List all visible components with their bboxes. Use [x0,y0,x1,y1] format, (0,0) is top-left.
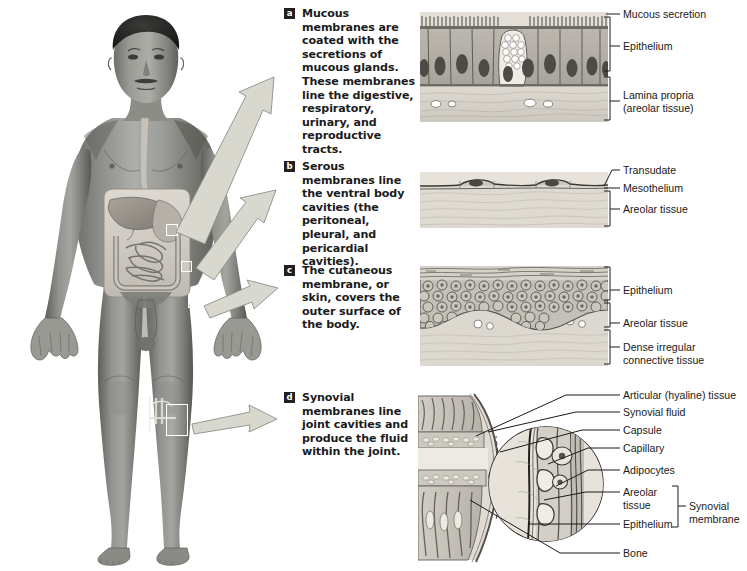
micrograph-panel-mucous [420,12,608,122]
left-hand [31,318,78,360]
badge-d: d [284,392,295,403]
body-svg [0,0,300,571]
magnified-inset [489,427,603,541]
label-areolar-tissue-c: Areolar tissue [623,317,688,329]
description-b-text: Serous membranes line the ventral body c… [302,160,416,269]
left-nipple [109,163,114,168]
label-mesothelium: Mesothelium [623,182,683,194]
label-mucous-secretion: Mucous secretion [623,8,706,20]
badge-a: a [284,8,295,19]
scrotum [137,337,155,351]
right-foot [157,548,189,565]
label-areolar-tissue-d: Areolar tissue [623,486,657,511]
label-epithelium-d: Epithelium [623,518,672,530]
label-articular-hyaline-tissue: Articular (hyaline) tissue [623,389,736,401]
badge-b: b [284,161,295,172]
marker-box-mucous [166,224,178,236]
right-hand [214,318,261,360]
description-a-text: Mucous membranes are coated with the sec… [302,7,416,157]
label-transudate: Transudate [623,164,676,176]
label-lamina-propria: Lamina propria (areolar tissue) [623,89,694,114]
label-synovial-membrane: Synovial membrane [689,500,740,525]
description-c-text: The cutaneous membrane, or skin, covers … [302,264,416,332]
left-ear [108,58,112,70]
label-epithelium-c: Epithelium [623,284,672,296]
label-capsule: Capsule [623,424,662,436]
description-d-text: Synovial membranes line joint cavities a… [302,391,416,459]
description-b: b Serous membranes line the ventral body… [284,160,416,269]
marker-box-synovial [166,404,188,436]
left-foot [98,548,130,565]
marker-box-serous [181,261,192,272]
illustration-panel-synovial [418,392,608,564]
right-ear [180,58,184,70]
marker-box-cutaneous [188,294,202,308]
description-a: a Mucous membranes are coated with the s… [284,7,416,157]
label-synovial-fluid: Synovial fluid [623,406,685,418]
label-capillary: Capillary [623,442,664,454]
right-nipple [177,163,182,168]
right-eye [154,54,164,59]
label-adipocytes: Adipocytes [623,464,675,476]
badge-c: c [284,265,295,276]
description-c: c The cutaneous membrane, or skin, cover… [284,264,416,332]
label-epithelium-a: Epithelium [623,40,672,52]
label-bone: Bone [623,547,648,559]
micrograph-panel-serous [420,172,608,228]
bracket-synovial-membrane [672,486,678,527]
description-d: d Synovial membranes line joint cavities… [284,391,416,459]
human-body-illustration [0,0,300,571]
micrograph-panel-cutaneous [420,266,608,366]
figure-canvas: a Mucous membranes are coated with the s… [0,0,747,571]
genitalia [135,300,156,342]
label-areolar-tissue-b: Areolar tissue [623,203,688,215]
left-patella-shading [107,381,133,415]
left-eye [128,54,138,59]
label-dense-irregular-connective-tissue: Dense irregular connective tissue [623,341,704,366]
